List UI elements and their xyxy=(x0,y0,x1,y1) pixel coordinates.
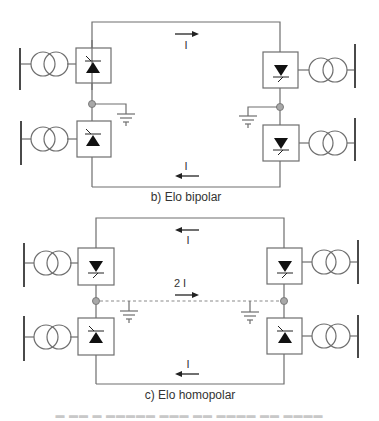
current-arrow-bottom: I xyxy=(175,160,199,179)
converter-right-upper xyxy=(263,44,355,88)
transformer-icon xyxy=(34,251,58,275)
midpoint-node xyxy=(281,298,288,305)
current-arrow-top: I xyxy=(175,227,199,246)
converter-right-lower xyxy=(267,315,358,358)
converter-right-lower xyxy=(263,118,355,161)
current-label: 2 I xyxy=(174,277,186,289)
transformer-icon xyxy=(31,52,55,76)
ground-icon xyxy=(239,116,257,128)
diagram-caption: c) Elo homopolar xyxy=(145,388,236,402)
hvdc-link-diagrams: I I b) Elo bipolar xyxy=(0,0,379,421)
converter-left-lower xyxy=(21,121,111,165)
transformer-icon xyxy=(31,127,55,151)
current-arrow-top: I xyxy=(175,31,199,51)
transformer-icon xyxy=(34,325,58,349)
transformer-icon xyxy=(312,250,336,274)
converter-left-lower xyxy=(24,316,114,361)
midpoint-node xyxy=(93,298,100,305)
current-arrow-middle: 2 I xyxy=(174,277,199,298)
midpoint-node xyxy=(277,104,284,111)
current-label: I xyxy=(186,358,189,370)
ground-icon xyxy=(120,311,138,323)
transformer-icon xyxy=(309,131,333,155)
current-label: I xyxy=(184,160,187,172)
current-label: I xyxy=(184,39,187,51)
converter-left-upper xyxy=(24,243,114,287)
current-label: I xyxy=(186,234,189,246)
converter-right-upper xyxy=(267,240,358,284)
ground-icon xyxy=(241,312,259,324)
transformer-icon xyxy=(309,58,333,82)
midpoint-node xyxy=(89,101,96,108)
converter-left-upper xyxy=(20,40,111,90)
homopolar-diagram: I 2 I I c) Elo homopolar xyxy=(24,218,358,402)
transformer-icon xyxy=(312,324,336,348)
ground-icon xyxy=(117,114,135,126)
figure-caption-cropped: ▬ ▬▬ ▬ ▬▬▬▬▬ ▬▬▬ ▬▬ ▬▬▬▬ ▬▬ ▬▬▬▬ xyxy=(0,410,379,420)
diagram-caption: b) Elo bipolar xyxy=(151,190,222,204)
bipolar-diagram: I I b) Elo bipolar xyxy=(20,22,355,204)
current-arrow-bottom: I xyxy=(175,358,199,377)
